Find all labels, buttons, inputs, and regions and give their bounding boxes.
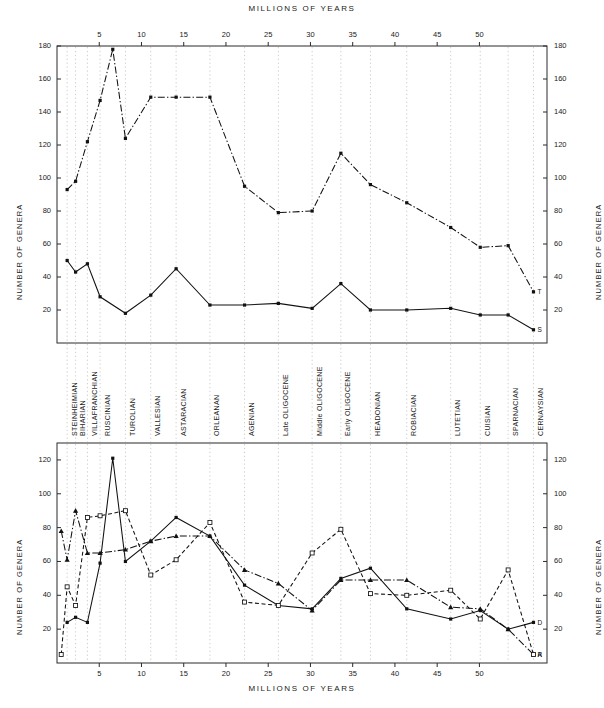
datapoint-bottom-D-3 <box>98 562 101 565</box>
xtick-label-bottom-40: 40 <box>381 669 409 678</box>
ytick-label-top-left-20: 20 <box>23 305 51 314</box>
datapoint-bottom-D-13 <box>369 567 372 570</box>
ytick-label-bottom-right-20: 20 <box>554 624 582 633</box>
ytick-label-top-right-80: 80 <box>554 206 582 215</box>
datapoint-bottom-D-4 <box>111 457 114 460</box>
xtick-label-bottom-25: 25 <box>254 669 282 678</box>
ytick-label-bottom-right-60: 60 <box>554 556 582 565</box>
datapoint-top-S-13 <box>405 308 408 311</box>
datapoint-top-T-2 <box>86 140 89 143</box>
datapoint-bottom-R-13 <box>368 592 372 596</box>
xtick-label-bottom-45: 45 <box>423 669 451 678</box>
xtick-label-top-15: 15 <box>170 30 198 39</box>
stage-label-7: ORLEANAN <box>213 395 220 436</box>
datapoint-bottom-R-7 <box>174 558 178 562</box>
datapoint-top-S-15 <box>479 313 482 316</box>
series-line-bottom-A <box>61 511 533 655</box>
datapoint-top-S-10 <box>311 307 314 310</box>
datapoint-top-T-9 <box>243 185 246 188</box>
datapoint-bottom-A-16 <box>478 606 483 611</box>
datapoint-top-S-7 <box>208 303 211 306</box>
series-end-label-bottom-R: R <box>537 651 542 658</box>
stage-label-9: Late OLIGOCENE <box>282 374 289 436</box>
datapoint-top-T-5 <box>124 137 127 140</box>
datapoint-bottom-D-15 <box>449 617 452 620</box>
ytick-label-bottom-right-100: 100 <box>554 489 582 498</box>
ytick-label-top-right-120: 120 <box>554 140 582 149</box>
datapoint-top-T-13 <box>369 183 372 186</box>
bottom-plot-frame <box>57 443 547 663</box>
stage-label-11: Early OLIGOCENE <box>344 371 351 436</box>
ytick-label-bottom-left-80: 80 <box>23 523 51 532</box>
datapoint-top-T-3 <box>98 99 101 102</box>
xtick-label-top-5: 5 <box>85 30 113 39</box>
xtick-label-top-40: 40 <box>381 30 409 39</box>
datapoint-top-T-0 <box>66 188 69 191</box>
datapoint-bottom-R-10 <box>276 603 280 607</box>
datapoint-bottom-R-14 <box>405 593 409 597</box>
chart-vector-layer: TSDAR <box>0 0 604 708</box>
ytick-label-bottom-left-20: 20 <box>23 624 51 633</box>
datapoint-top-T-8 <box>208 96 211 99</box>
xtick-label-bottom-20: 20 <box>212 669 240 678</box>
datapoint-bottom-A-10 <box>276 581 281 586</box>
datapoint-bottom-R-8 <box>208 521 212 525</box>
datapoint-bottom-A-7 <box>174 533 179 538</box>
datapoint-bottom-A-15 <box>448 605 453 610</box>
datapoint-bottom-D-14 <box>405 607 408 610</box>
datapoint-top-S-17 <box>532 328 535 331</box>
datapoint-top-S-4 <box>124 312 127 315</box>
datapoint-top-S-5 <box>149 294 152 297</box>
datapoint-bottom-D-18 <box>532 621 535 624</box>
ytick-label-top-left-180: 180 <box>23 41 51 50</box>
datapoint-bottom-R-0 <box>59 653 63 657</box>
stage-label-2: VILLAFRANCHIAN <box>91 371 98 436</box>
ytick-label-bottom-left-60: 60 <box>23 556 51 565</box>
ytick-label-top-right-160: 160 <box>554 74 582 83</box>
ytick-label-top-left-40: 40 <box>23 272 51 281</box>
datapoint-top-T-17 <box>507 244 510 247</box>
ytick-label-top-left-100: 100 <box>23 173 51 182</box>
xtick-label-top-50: 50 <box>465 30 493 39</box>
datapoint-bottom-A-0 <box>59 528 64 533</box>
ytick-label-bottom-left-40: 40 <box>23 590 51 599</box>
datapoint-top-T-16 <box>479 246 482 249</box>
ytick-label-top-left-140: 140 <box>23 107 51 116</box>
datapoint-top-T-1 <box>74 180 77 183</box>
stage-label-13: ROBIACIAN <box>410 394 417 436</box>
ytick-label-top-right-140: 140 <box>554 107 582 116</box>
series-end-label-bottom-D: D <box>537 619 542 626</box>
xtick-label-top-30: 30 <box>296 30 324 39</box>
datapoint-top-S-6 <box>175 267 178 270</box>
stage-label-0: STEINHEIMIAN <box>71 382 78 436</box>
series-end-label-top-S: S <box>537 326 542 333</box>
stage-label-15: CUISIAN <box>484 405 491 436</box>
ytick-label-bottom-right-120: 120 <box>554 455 582 464</box>
ytick-label-top-left-160: 160 <box>23 74 51 83</box>
ytick-label-top-right-180: 180 <box>554 41 582 50</box>
datapoint-bottom-R-11 <box>310 551 314 555</box>
datapoint-top-T-14 <box>405 201 408 204</box>
datapoint-bottom-A-9 <box>242 567 247 572</box>
stage-label-10: Middle OLIGOCENE <box>316 366 323 436</box>
series-end-label-top-T: T <box>537 288 541 295</box>
series-line-bottom-R <box>61 511 533 655</box>
stage-label-1: BIHARIAN <box>79 400 86 436</box>
datapoint-bottom-A-14 <box>404 577 409 582</box>
datapoint-top-S-16 <box>507 313 510 316</box>
xtick-label-top-25: 25 <box>254 30 282 39</box>
ytick-label-bottom-left-120: 120 <box>23 455 51 464</box>
stage-label-8: AGENIAN <box>248 402 255 436</box>
ytick-label-bottom-right-80: 80 <box>554 523 582 532</box>
ytick-label-top-right-60: 60 <box>554 239 582 248</box>
stage-label-6: ASTARACIAN <box>180 388 187 436</box>
datapoint-bottom-R-3 <box>85 515 89 519</box>
datapoint-bottom-R-4 <box>98 514 102 518</box>
stage-label-12: HEADONIAN <box>374 391 381 436</box>
datapoint-bottom-D-2 <box>86 621 89 624</box>
datapoint-top-S-12 <box>369 308 372 311</box>
ytick-label-top-left-120: 120 <box>23 140 51 149</box>
datapoint-bottom-R-2 <box>74 603 78 607</box>
ytick-label-top-right-40: 40 <box>554 272 582 281</box>
datapoint-top-T-12 <box>339 152 342 155</box>
